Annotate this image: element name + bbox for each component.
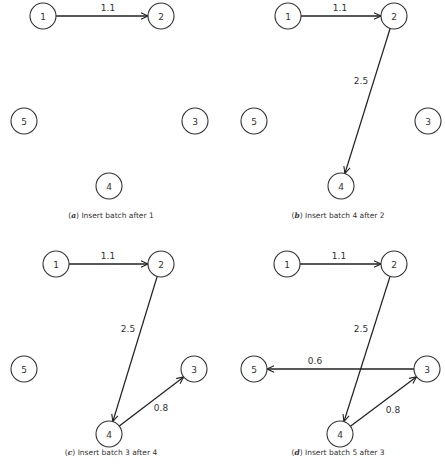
edge-weight-label: 1.1 <box>333 3 347 13</box>
node-label: 4 <box>106 430 112 440</box>
node-1: 1 <box>30 3 56 29</box>
node-4: 4 <box>328 173 354 199</box>
node-3: 3 <box>181 356 207 382</box>
edge-2-to-4: 2.5 <box>343 276 390 421</box>
node-label: 5 <box>21 365 27 375</box>
edge-2-to-4: 2.5 <box>112 276 157 421</box>
edge-line <box>119 377 183 426</box>
edge-1-to-2: 1.1 <box>300 251 381 267</box>
edge-4-to-3: 0.8 <box>119 377 183 426</box>
node-3: 3 <box>415 108 441 134</box>
node-label: 3 <box>192 117 198 127</box>
node-label: 2 <box>391 260 397 270</box>
edge-1-to-2: 1.1 <box>69 251 148 267</box>
node-2: 2 <box>148 251 174 277</box>
node-4: 4 <box>96 421 122 447</box>
node-label: 3 <box>424 365 430 375</box>
node-1: 1 <box>43 251 69 277</box>
node-label: 1 <box>40 12 46 22</box>
node-2: 2 <box>381 251 407 277</box>
node-2: 2 <box>381 3 407 29</box>
panel-caption: (d) Insert batch 5 after 3 <box>291 448 384 457</box>
edge-3-to-5: 0.6 <box>267 356 414 372</box>
node-label: 1 <box>53 260 59 270</box>
node-label: 1 <box>284 260 290 270</box>
edge-weight-label: 1.1 <box>101 251 115 261</box>
edge-weight-label: 0.6 <box>308 356 323 366</box>
edge-weight-label: 1.1 <box>101 3 115 13</box>
panel-a: 1.112345(a) Insert batch after 1 <box>11 3 208 220</box>
node-label: 2 <box>158 260 164 270</box>
panel-caption: (c) Insert batch 3 after 4 <box>65 448 158 457</box>
node-5: 5 <box>11 356 37 382</box>
node-label: 5 <box>21 117 27 127</box>
edge-weight-label: 1.1 <box>332 251 346 261</box>
panel-b: 1.12.512345(b) Insert batch 4 after 2 <box>241 3 441 220</box>
node-label: 3 <box>191 365 197 375</box>
node-label: 5 <box>251 365 257 375</box>
node-5: 5 <box>11 108 37 134</box>
edge-4-to-3: 0.8 <box>350 377 416 426</box>
node-4: 4 <box>96 173 122 199</box>
node-3: 3 <box>414 356 440 382</box>
edge-line <box>113 276 157 421</box>
node-label: 2 <box>158 12 164 22</box>
edge-2-to-4: 2.5 <box>344 28 390 173</box>
edge-weight-label: 0.8 <box>154 403 169 413</box>
panel-caption: (b) Insert batch 4 after 2 <box>291 211 384 220</box>
edge-line <box>350 377 416 426</box>
edge-weight-label: 2.5 <box>121 324 135 334</box>
node-5: 5 <box>241 108 267 134</box>
edge-line <box>345 28 390 173</box>
edge-weight-label: 2.5 <box>354 324 368 334</box>
node-label: 4 <box>337 430 343 440</box>
edge-line <box>344 276 390 421</box>
panel-d: 1.12.50.80.612345(d) Insert batch 5 afte… <box>241 251 440 457</box>
node-label: 4 <box>338 182 344 192</box>
node-label: 5 <box>251 117 257 127</box>
edge-1-to-2: 1.1 <box>56 3 148 19</box>
node-5: 5 <box>241 356 267 382</box>
node-label: 3 <box>425 117 431 127</box>
batch-insertion-diagram: 1.112345(a) Insert batch after 11.12.512… <box>0 0 445 471</box>
node-3: 3 <box>182 108 208 134</box>
node-2: 2 <box>148 3 174 29</box>
edge-weight-label: 0.8 <box>386 405 401 415</box>
node-label: 1 <box>285 12 291 22</box>
node-1: 1 <box>275 3 301 29</box>
edge-weight-label: 2.5 <box>354 76 368 86</box>
node-label: 4 <box>106 182 112 192</box>
node-4: 4 <box>327 421 353 447</box>
panel-c: 1.12.50.812345(c) Insert batch 3 after 4 <box>11 251 207 457</box>
node-label: 2 <box>391 12 397 22</box>
edge-1-to-2: 1.1 <box>301 3 381 19</box>
node-1: 1 <box>274 251 300 277</box>
panel-caption: (a) Insert batch after 1 <box>68 211 154 220</box>
